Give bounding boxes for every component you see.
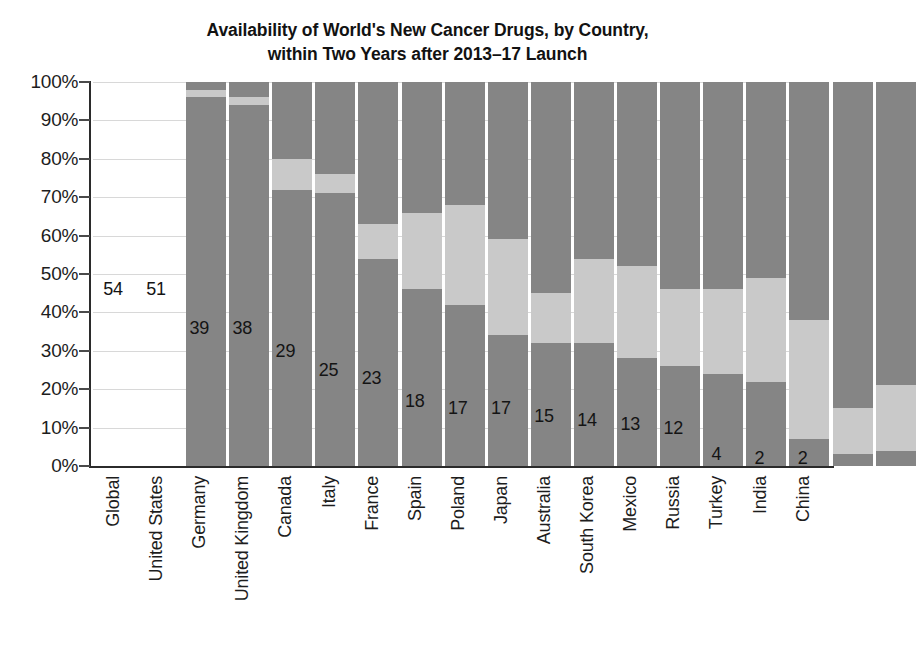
bar-segment-unavailable — [402, 82, 442, 213]
y-axis-tick-label: 40% — [2, 302, 78, 321]
bar-value-label: 17 — [481, 399, 521, 417]
bar-segment-partial — [876, 385, 916, 450]
bar-segment-available — [358, 259, 398, 466]
x-axis-category-label-germany: Germany — [179, 476, 219, 672]
bar-value-label: 2 — [783, 449, 823, 467]
x-axis-category-label-china: China — [783, 476, 823, 672]
bar-segment-unavailable — [789, 82, 829, 320]
bar-segment-unavailable — [660, 82, 700, 289]
bar-russia[interactable] — [746, 82, 786, 466]
bar-value-label: 29 — [265, 342, 305, 360]
x-axis-category-label-italy: Italy — [309, 476, 349, 672]
bar-segment-available — [445, 305, 485, 466]
x-axis-category-text: Global — [104, 476, 122, 527]
bar-australia[interactable] — [617, 82, 657, 466]
bar-segment-available — [660, 366, 700, 466]
bar-value-label: 18 — [395, 392, 435, 410]
x-axis-category-label-mexico: Mexico — [610, 476, 650, 672]
y-axis-tick-mark — [79, 119, 90, 121]
bar-segment-unavailable — [703, 82, 743, 289]
bar-value-label: 17 — [438, 399, 478, 417]
bar-segment-unavailable — [746, 82, 786, 278]
bar-segment-partial — [358, 224, 398, 259]
bar-segment-available — [833, 454, 873, 466]
bar-japan[interactable] — [574, 82, 614, 466]
bar-segment-available — [617, 358, 657, 466]
bar-south-korea[interactable] — [660, 82, 700, 466]
x-axis-category-text: India — [751, 476, 769, 514]
bar-segment-unavailable — [358, 82, 398, 224]
y-axis-tick-mark — [79, 350, 90, 352]
bar-segment-partial — [272, 159, 312, 190]
y-axis-tick-label: 0% — [2, 456, 78, 475]
x-axis-category-text: Australia — [535, 476, 553, 544]
bar-segment-partial — [315, 174, 355, 193]
y-axis-tick-mark — [79, 388, 90, 390]
y-axis-tick-mark — [79, 427, 90, 429]
y-axis-tick-mark — [79, 465, 90, 467]
y-axis-tick-label: 10% — [2, 418, 78, 437]
bar-germany[interactable] — [272, 82, 312, 466]
x-axis-category-text: Canada — [276, 476, 294, 538]
x-axis-category-label-global: Global — [93, 476, 133, 672]
x-axis-category-label-india: India — [740, 476, 780, 672]
chart-title-line-2: within Two Years after 2013–17 Launch — [0, 42, 855, 66]
bar-segment-available — [876, 451, 916, 466]
bar-segment-partial — [789, 320, 829, 439]
y-axis-tick-mark — [79, 196, 90, 198]
x-axis-category-text: Japan — [492, 476, 510, 524]
bar-segment-partial — [402, 213, 442, 290]
bar-canada[interactable] — [358, 82, 398, 466]
x-axis-category-text: United States — [147, 476, 165, 581]
bar-united-states[interactable] — [229, 82, 269, 466]
bar-turkey[interactable] — [789, 82, 829, 466]
y-axis-tick-label: 90% — [2, 110, 78, 129]
x-axis-category-text: United Kingdom — [233, 476, 251, 601]
y-axis-tick-label: 100% — [2, 72, 78, 91]
x-axis-category-text: Germany — [190, 476, 208, 549]
x-axis-category-text: Turkey — [707, 476, 725, 529]
bar-value-label: 15 — [524, 407, 564, 425]
bar-segment-unavailable — [272, 82, 312, 159]
bar-segment-unavailable — [186, 82, 226, 90]
x-axis-category-text: Italy — [320, 476, 338, 508]
bar-segment-partial — [746, 278, 786, 382]
bar-segment-partial — [531, 293, 571, 343]
bar-value-label: 25 — [309, 361, 349, 379]
x-axis-category-label-united-states: United States — [136, 476, 176, 672]
x-axis-category-label-spain: Spain — [395, 476, 435, 672]
x-axis-category-label-turkey: Turkey — [696, 476, 736, 672]
bar-segment-unavailable — [574, 82, 614, 259]
x-axis-category-label-japan: Japan — [481, 476, 521, 672]
bar-segment-available — [531, 343, 571, 466]
y-axis-tick-labels: 100%90%80%70%60%50%40%30%20%10%0% — [0, 0, 78, 672]
bar-segment-partial — [574, 259, 614, 343]
bar-segment-available — [574, 343, 614, 466]
bar-value-label: 12 — [653, 419, 693, 437]
y-axis-tick-label: 20% — [2, 379, 78, 398]
bar-mexico[interactable] — [703, 82, 743, 466]
x-axis-category-label-poland: Poland — [438, 476, 478, 672]
bar-segment-available — [272, 190, 312, 466]
x-axis-category-label-russia: Russia — [653, 476, 693, 672]
bar-value-label: 23 — [352, 369, 392, 387]
y-axis-tick-label: 30% — [2, 341, 78, 360]
x-axis-category-label-south-korea: South Korea — [567, 476, 607, 672]
bar-india[interactable] — [833, 82, 873, 466]
bar-segment-unavailable — [488, 82, 528, 239]
bar-segment-unavailable — [315, 82, 355, 174]
bar-value-label: 51 — [136, 280, 176, 298]
bar-segment-unavailable — [531, 82, 571, 293]
bar-segment-unavailable — [876, 82, 916, 385]
bar-segment-partial — [186, 90, 226, 98]
bar-united-kingdom[interactable] — [315, 82, 355, 466]
x-axis-category-text: China — [794, 476, 812, 522]
x-axis-category-text: France — [363, 476, 381, 531]
x-axis-category-label-united-kingdom: United Kingdom — [222, 476, 262, 672]
bar-global[interactable] — [186, 82, 226, 466]
x-axis-category-text: Spain — [406, 476, 424, 521]
x-axis-category-label-australia: Australia — [524, 476, 564, 672]
y-axis-tick-label: 50% — [2, 264, 78, 283]
bar-china[interactable] — [876, 82, 916, 466]
